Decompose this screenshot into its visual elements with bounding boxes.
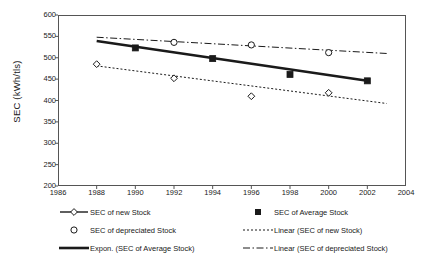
legend-item[interactable]: SEC of Average Stock bbox=[242, 203, 432, 221]
data-point-marker bbox=[248, 93, 255, 100]
data-point-marker bbox=[132, 45, 138, 51]
legend-column-right: SEC of Average StockLinear (SEC of new S… bbox=[242, 203, 432, 257]
legend-item[interactable]: SEC of new Stock bbox=[58, 203, 248, 221]
chart-area: 200250300350400450500550600 198619881990… bbox=[0, 0, 438, 200]
legend-item[interactable]: Linear (SEC of new Stock) bbox=[242, 221, 432, 239]
trend-line bbox=[97, 66, 387, 104]
legend-item-label: SEC of Average Stock bbox=[274, 208, 348, 217]
legend-column-left: SEC of new StockSEC of depreciated Stock… bbox=[58, 203, 248, 257]
trend-line bbox=[97, 37, 387, 53]
filled-square-icon bbox=[255, 209, 261, 215]
dotted-line-icon bbox=[242, 223, 274, 237]
legend-item[interactable]: Linear (SEC of depreciated Stock) bbox=[242, 239, 432, 257]
data-point-marker bbox=[287, 71, 293, 77]
data-point-marker bbox=[171, 39, 177, 45]
solid-thick-line-icon bbox=[58, 241, 90, 255]
data-point-marker bbox=[210, 56, 216, 62]
data-point-marker bbox=[93, 61, 100, 68]
chart-legend: SEC of new StockSEC of depreciated Stock… bbox=[0, 203, 438, 263]
legend-item[interactable]: Expon. (SEC of Average Stock) bbox=[58, 239, 248, 257]
data-point-marker bbox=[326, 50, 332, 56]
chart-screenshot: 200250300350400450500550600 198619881990… bbox=[0, 0, 438, 266]
open-circle-icon bbox=[58, 223, 90, 237]
data-point-marker bbox=[364, 78, 370, 84]
data-point-marker bbox=[248, 42, 254, 48]
legend-item-label: Linear (SEC of new Stock) bbox=[274, 226, 362, 235]
legend-item-label: SEC of new Stock bbox=[90, 208, 150, 217]
legend-item-label: SEC of depreciated Stock bbox=[90, 226, 176, 235]
dash-dot-line-icon bbox=[242, 241, 274, 255]
open-diamond-icon bbox=[71, 209, 78, 216]
data-point-marker bbox=[325, 89, 332, 96]
legend-item-label: Linear (SEC of depreciated Stock) bbox=[274, 244, 388, 253]
legend-item[interactable]: SEC of depreciated Stock bbox=[58, 221, 248, 239]
plot-series-overlay bbox=[0, 0, 438, 200]
legend-item-label: Expon. (SEC of Average Stock) bbox=[90, 244, 195, 253]
line-open-diamond-icon bbox=[58, 205, 90, 219]
filled-square-icon bbox=[242, 205, 274, 219]
open-circle-icon bbox=[71, 227, 77, 233]
